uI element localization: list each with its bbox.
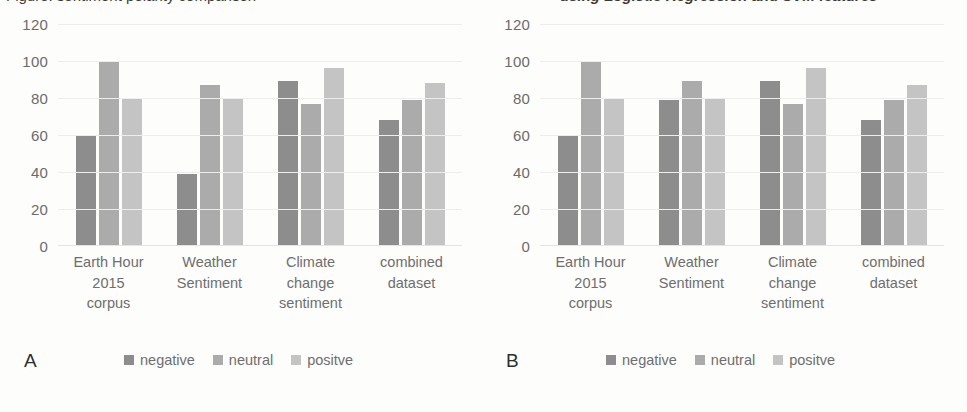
plot-area-b [540, 24, 944, 246]
y-tick-label: 80 [513, 91, 530, 106]
legend-label: negative [622, 352, 677, 368]
bar-positve[interactable] [425, 83, 445, 246]
gridline [540, 172, 944, 173]
gridline [540, 61, 944, 62]
y-tick-label: 60 [31, 128, 48, 143]
legend-b: negativeneutralpositve [606, 352, 835, 368]
y-tick-label: 100 [22, 54, 48, 69]
legend-swatch-icon [773, 355, 783, 365]
legend-swatch-icon [606, 355, 616, 365]
axis-baseline [540, 245, 944, 246]
legend-item-positve[interactable]: positve [773, 352, 835, 368]
x-axis-category-label: combineddataset [366, 252, 458, 314]
bar-positve[interactable] [907, 85, 927, 246]
plot-frame-a: 020406080100120 Earth Hour2015corpusWeat… [4, 24, 474, 256]
clipped-caption-row: Figure: sentiment polarity comparison us… [0, 0, 967, 16]
legend-item-negative[interactable]: negative [606, 352, 677, 368]
y-tick-label: 120 [22, 17, 48, 32]
bar-neutral[interactable] [682, 81, 702, 246]
x-axis-category-label: WeatherSentiment [646, 252, 738, 314]
legend-swatch-icon [213, 355, 223, 365]
legend-label: neutral [711, 352, 755, 368]
x-axis-category-label: Climatechangesentiment [265, 252, 357, 314]
y-tick-label: 0 [39, 239, 48, 254]
gridline [58, 209, 462, 210]
gridline [58, 98, 462, 99]
y-tick-label: 80 [31, 91, 48, 106]
y-tick-label: 60 [513, 128, 530, 143]
y-tick-label: 20 [513, 202, 530, 217]
bar-neutral[interactable] [581, 61, 601, 246]
legend-label: negative [140, 352, 195, 368]
gridline [540, 135, 944, 136]
panel-letter-b: B [506, 350, 519, 372]
axis-baseline [58, 245, 462, 246]
y-tick-label: 100 [504, 54, 530, 69]
panel-letter-a: A [24, 350, 37, 372]
plot-frame-b: 020406080100120 Earth Hour2015corpusWeat… [486, 24, 956, 256]
bar-negative[interactable] [76, 135, 96, 246]
plot-area-a [58, 24, 462, 246]
bar-negative[interactable] [760, 81, 780, 246]
legend-label: positve [307, 352, 353, 368]
y-tick-label: 20 [31, 202, 48, 217]
bar-positve[interactable] [324, 68, 344, 246]
x-axis-category-label: Earth Hour2015corpus [545, 252, 637, 314]
legend-item-positve[interactable]: positve [291, 352, 353, 368]
y-tick-label: 40 [513, 165, 530, 180]
gridline [58, 172, 462, 173]
legend-swatch-icon [695, 355, 705, 365]
gridline [58, 24, 462, 25]
bar-neutral[interactable] [301, 104, 321, 246]
legend-label: positve [789, 352, 835, 368]
legend-label: neutral [229, 352, 273, 368]
bar-neutral[interactable] [200, 85, 220, 246]
x-axis-category-label: combineddataset [848, 252, 940, 314]
chart-panel-b: 020406080100120 Earth Hour2015corpusWeat… [486, 18, 964, 394]
x-axis-category-label: Earth Hour2015corpus [63, 252, 155, 314]
panel-footer-b: B negativeneutralpositve [486, 348, 964, 382]
gridline [540, 24, 944, 25]
chart-panel-a: 020406080100120 Earth Hour2015corpusWeat… [4, 18, 482, 394]
legend-a: negativeneutralpositve [124, 352, 353, 368]
x-axis-labels-a: Earth Hour2015corpusWeatherSentimentClim… [58, 252, 462, 314]
y-tick-label: 120 [504, 17, 530, 32]
legend-item-neutral[interactable]: neutral [213, 352, 273, 368]
legend-item-negative[interactable]: negative [124, 352, 195, 368]
x-axis-category-label: WeatherSentiment [164, 252, 256, 314]
bar-neutral[interactable] [783, 104, 803, 246]
gridline [58, 135, 462, 136]
bar-positve[interactable] [806, 68, 826, 246]
gridline [540, 209, 944, 210]
y-axis-a: 020406080100120 [4, 24, 52, 256]
y-axis-b: 020406080100120 [486, 24, 534, 256]
x-axis-labels-b: Earth Hour2015corpusWeatherSentimentClim… [540, 252, 944, 314]
clipped-caption-right: using Logistic Regression and SVM featur… [560, 0, 878, 4]
bar-negative[interactable] [278, 81, 298, 246]
gridline [540, 98, 944, 99]
y-tick-label: 40 [31, 165, 48, 180]
gridline [58, 61, 462, 62]
panel-footer-a: A negativeneutralpositve [4, 348, 482, 382]
bar-negative[interactable] [861, 120, 881, 246]
legend-swatch-icon [124, 355, 134, 365]
bar-negative[interactable] [379, 120, 399, 246]
x-axis-category-label: Climatechangesentiment [747, 252, 839, 314]
clipped-caption-left: Figure: sentiment polarity comparison [6, 0, 256, 4]
y-tick-label: 0 [521, 239, 530, 254]
legend-item-neutral[interactable]: neutral [695, 352, 755, 368]
figure-page: Figure: sentiment polarity comparison us… [0, 0, 967, 412]
legend-swatch-icon [291, 355, 301, 365]
bar-negative[interactable] [558, 135, 578, 246]
bar-neutral[interactable] [99, 61, 119, 246]
